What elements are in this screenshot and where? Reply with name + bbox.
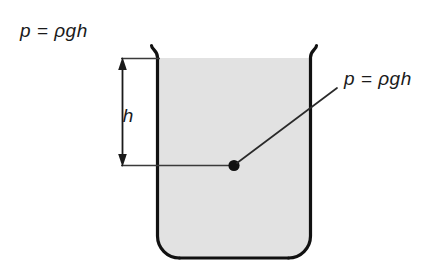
- top-left-formula: p = ρgh: [19, 20, 88, 41]
- figure-canvas: h p = ρgh p = ρgh: [0, 0, 439, 265]
- liquid-fill: [159, 58, 310, 257]
- depth-label: h: [123, 105, 134, 126]
- callout-formula: p = ρgh: [343, 68, 412, 89]
- pressure-diagram-svg: h p = ρgh p = ρgh: [0, 0, 439, 265]
